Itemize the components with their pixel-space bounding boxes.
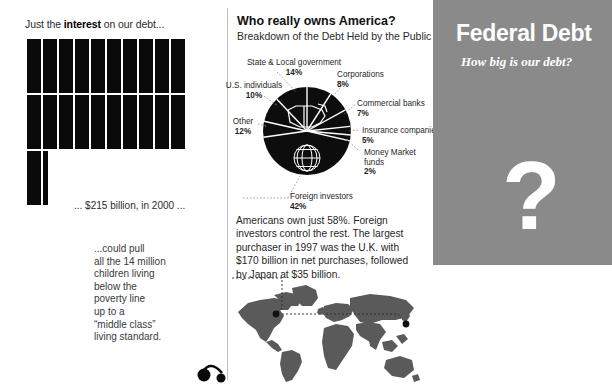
bar	[155, 95, 169, 149]
poverty-line-5: up to a	[94, 306, 166, 319]
pie-label-insurance-text: Insurance companies	[362, 126, 440, 135]
pie-label-state-local: State & Local government 14%	[234, 58, 354, 77]
bar	[27, 39, 41, 93]
interest-heading-suffix: on our debt...	[101, 18, 164, 30]
telephone-icon	[196, 362, 226, 384]
infographic-page: Just the interest on our debt...	[0, 0, 612, 388]
interest-heading: Just the interest on our debt...	[25, 18, 164, 30]
bar-chart-caption: ... $215 billion, in 2000 ...	[74, 200, 185, 211]
pie-label-corporations-text: Corporations	[337, 70, 384, 79]
japan-marker	[403, 321, 410, 328]
bar	[123, 39, 137, 93]
poverty-line-6: “middle class”	[94, 319, 166, 332]
pie-label-corporations: Corporations 8%	[337, 70, 384, 89]
interest-heading-bold: interest	[64, 18, 101, 30]
bar	[107, 39, 121, 93]
bar-row-3	[27, 151, 48, 205]
bar	[43, 95, 57, 149]
pie-label-other: Other 12%	[228, 117, 258, 136]
bar	[59, 95, 73, 149]
left-column: Just the interest on our debt...	[0, 0, 228, 388]
bar	[43, 39, 57, 93]
bar	[27, 95, 41, 149]
world-map-landmasses	[238, 285, 420, 382]
pie-label-foreign-investors: Foreign investors 42%	[290, 192, 353, 211]
pie-label-commercial-banks-text: Commercial banks	[357, 99, 425, 108]
bar	[59, 39, 73, 93]
question-mark-glyph: ?	[502, 148, 561, 244]
pie-label-commercial-banks: Commercial banks 7%	[357, 99, 425, 118]
pie-value-state-local: 14%	[234, 68, 354, 78]
interest-bar-chart	[27, 39, 190, 209]
bar	[171, 39, 185, 93]
world-map	[230, 276, 420, 384]
poverty-line-3: below the	[94, 281, 166, 294]
poverty-line-2: children living	[94, 268, 166, 281]
pie-label-us-individuals-text: U.S. individuals	[226, 81, 282, 90]
bar	[75, 39, 89, 93]
pie-label-other-text: Other	[233, 117, 253, 126]
bar	[123, 95, 137, 149]
panel-title: Federal Debt	[456, 20, 592, 47]
bar	[27, 151, 41, 205]
pie-value-insurance: 5%	[362, 136, 440, 146]
bar	[171, 95, 185, 149]
panel-subtitle: How big is our debt?	[461, 54, 572, 70]
bar	[107, 95, 121, 149]
poverty-paragraph: ...could pull all the 14 million childre…	[94, 243, 166, 344]
poverty-line-1: all the 14 million	[94, 256, 166, 269]
bar-partial	[43, 151, 48, 205]
interest-heading-prefix: Just the	[25, 18, 64, 30]
bar-row-1	[27, 39, 185, 93]
bar	[91, 95, 105, 149]
pie-value-other: 12%	[228, 127, 258, 137]
pie-label-foreign-investors-text: Foreign investors	[290, 192, 353, 201]
bar	[155, 39, 169, 93]
bar-row-2	[27, 95, 185, 149]
ownership-paragraph: Americans own just 58%. Foreign investor…	[236, 214, 416, 281]
poverty-line-0: ...could pull	[94, 243, 166, 256]
pie-label-money-market: Money Market funds 2%	[364, 148, 416, 177]
pie-value-commercial-banks: 7%	[357, 109, 425, 119]
pie-value-us-individuals: 10%	[218, 91, 290, 101]
poverty-line-7: living standard.	[94, 331, 166, 344]
pie-label-money-market-line1: Money Market	[364, 148, 416, 157]
bar	[139, 39, 153, 93]
pie-value-foreign-investors: 42%	[290, 202, 353, 212]
center-subtitle: Breakdown of the Debt Held by the Public	[237, 30, 431, 42]
pie-value-corporations: 8%	[337, 80, 384, 90]
center-title: Who really owns America?	[237, 14, 396, 28]
pie-label-state-local-text: State & Local government	[247, 58, 341, 67]
pie-value-money-market: 2%	[364, 167, 416, 177]
pie-label-insurance: Insurance companies 5%	[362, 126, 440, 145]
poverty-line-4: poverty line	[94, 293, 166, 306]
bar	[139, 95, 153, 149]
bar	[75, 95, 89, 149]
bar	[91, 39, 105, 93]
uk-marker	[273, 311, 280, 318]
pie-label-us-individuals: U.S. individuals 10%	[218, 81, 290, 100]
pie-label-money-market-line2: funds	[364, 158, 384, 167]
